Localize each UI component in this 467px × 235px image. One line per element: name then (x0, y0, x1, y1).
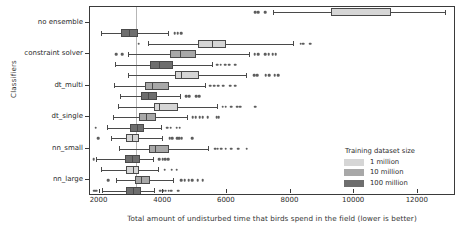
x-tick-label: 6000 (217, 196, 235, 204)
x-tick (162, 189, 163, 193)
x-tick-label: 8000 (281, 196, 299, 204)
cap-high (154, 188, 155, 193)
cap-low (102, 188, 103, 193)
x-tick (353, 189, 354, 193)
outlier-point (177, 189, 180, 192)
x-axis-title: Total amount of undisturbed time that bi… (89, 214, 455, 223)
median-line (133, 187, 134, 194)
legend-title: Training dataset size (345, 148, 448, 155)
y-category-label: nn_small (0, 144, 83, 152)
whisker-low (102, 191, 126, 192)
legend-label: 10 million (370, 169, 403, 176)
x-tick (99, 189, 100, 193)
y-tick (85, 179, 89, 180)
legend-swatch (344, 159, 364, 166)
legend-entry[interactable]: 100 million (344, 180, 448, 187)
y-tick (85, 148, 89, 149)
y-category-label: no ensemble (0, 18, 83, 26)
y-tick (85, 116, 89, 117)
legend-label: 100 million (370, 180, 408, 187)
outlier-point (95, 189, 98, 192)
y-tick (85, 85, 89, 86)
x-tick (226, 189, 227, 193)
x-tick-label: 4000 (153, 196, 171, 204)
legend-swatch (344, 180, 364, 187)
y-tick (85, 53, 89, 54)
x-tick (417, 189, 418, 193)
boxplot-figure: Classifiers Total amount of undisturbed … (0, 0, 467, 235)
y-category-label: nn_large (0, 175, 83, 183)
x-tick-label: 2000 (90, 196, 108, 204)
legend-entry[interactable]: 10 million (344, 169, 448, 176)
legend-label: 1 million (370, 159, 399, 166)
legend-swatch (344, 169, 364, 176)
x-tick (290, 189, 291, 193)
y-category-label: constraint solver (0, 49, 83, 57)
legend-entry[interactable]: 1 million (344, 159, 448, 166)
legend: Training dataset size 1 million10 millio… (344, 148, 448, 190)
whisker-high (141, 191, 154, 192)
x-tick-label: 10000 (342, 196, 364, 204)
y-category-label: dt_multi (0, 81, 83, 89)
x-tick-label: 12000 (406, 196, 428, 204)
legend-entries: 1 million10 million100 million (344, 159, 448, 187)
y-category-label: dt_single (0, 112, 83, 120)
outlier-point (170, 189, 173, 192)
y-tick (85, 22, 89, 23)
